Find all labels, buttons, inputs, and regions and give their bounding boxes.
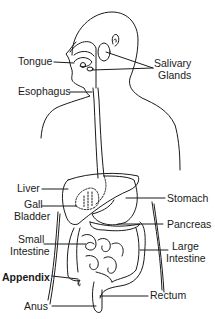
label-gall-bladder-1: Gall [24,199,43,210]
nasal-cavity [70,42,96,88]
label-pancreas: Pancreas [167,219,211,230]
label-salivary-glands-2: Glands [158,70,191,81]
label-large-intestine-1: Large [172,241,199,252]
label-appendix: Appendix [2,272,50,283]
label-small-intestine-2: Intestine [10,246,50,257]
label-tongue: Tongue [18,56,52,67]
label-small-intestine-1: Small [18,234,44,245]
head-outline [72,12,180,170]
label-liver: Liver [17,183,40,194]
small-intestine [82,234,123,282]
label-esophagus: Esophagus [18,86,71,97]
palate [74,51,94,56]
label-gall-bladder-2: Bladder [14,211,50,222]
label-anus: Anus [24,301,48,312]
label-stomach: Stomach [167,193,208,204]
ear [112,34,119,46]
label-rectum: Rectum [150,290,186,301]
label-salivary-glands-1: Salivary [154,58,191,69]
label-large-intestine-2: Intestine [166,253,206,264]
parotid-gland [98,43,110,61]
pancreas [90,222,140,231]
esophagus-tube [93,88,98,178]
gall-bladder [76,188,99,210]
